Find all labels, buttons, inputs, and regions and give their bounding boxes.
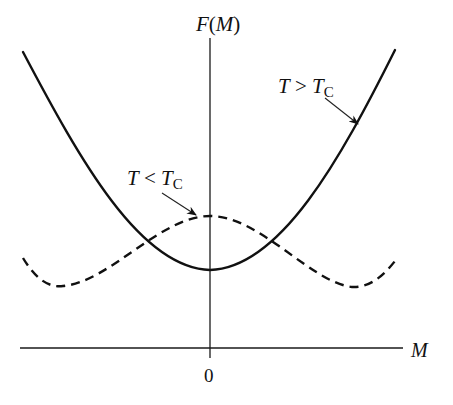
- free-energy-diagram: F(M) M 0 T > TC T < TC: [0, 0, 453, 405]
- label-below-tc: T < TC: [127, 166, 183, 192]
- origin-tick-label: 0: [204, 365, 214, 386]
- label-above-tc: T > TC: [278, 74, 334, 100]
- arrow-below-tc: [162, 193, 196, 215]
- arrow-above-tc: [325, 98, 358, 124]
- curve-above-tc: [23, 50, 395, 270]
- x-axis-label: M: [410, 339, 429, 361]
- curve-below-tc: [23, 216, 395, 287]
- y-axis-label: F(M): [195, 12, 240, 36]
